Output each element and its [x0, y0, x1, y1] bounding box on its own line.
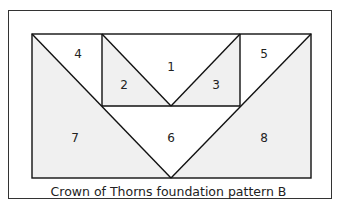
piece-label-2: 2	[120, 78, 128, 92]
piece-label-4: 4	[74, 47, 82, 61]
piece-label-8: 8	[260, 131, 268, 145]
piece-label-1: 1	[167, 60, 175, 74]
piece-label-3: 3	[212, 78, 220, 92]
pattern-diagram	[0, 0, 337, 214]
caption: Crown of Thorns foundation pattern B	[0, 184, 337, 199]
piece-label-6: 6	[167, 131, 175, 145]
piece-label-7: 7	[71, 131, 79, 145]
piece-label-5: 5	[260, 47, 268, 61]
